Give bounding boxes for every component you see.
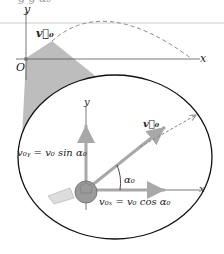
upper-x-label: x — [200, 52, 206, 65]
trajectory — [52, 21, 192, 59]
projectile-diagram — [0, 0, 224, 254]
inset-x-label: x — [199, 183, 205, 194]
origin-label: O — [16, 61, 25, 74]
inset-velocity-label: v⃗₀ — [143, 118, 159, 129]
vy-label: v₀ᵧ = v₀ sin α₀ — [17, 147, 87, 158]
vx-label: v₀ₓ = v₀ cos α₀ — [99, 196, 170, 207]
top-fragment: g g α₀ — [18, 0, 51, 5]
angle-label: α₀ — [124, 174, 135, 185]
upper-velocity-label: v⃗₀ — [36, 27, 54, 40]
upper-y-label: y — [24, 3, 30, 16]
soccer-ball-icon — [75, 181, 97, 203]
inset-y-label: y — [84, 96, 90, 107]
